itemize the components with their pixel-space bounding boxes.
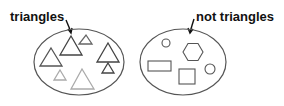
sorting-diagram — [0, 0, 284, 106]
triangle-shape — [79, 35, 92, 44]
triangle-shapes — [40, 35, 119, 89]
square-shape — [179, 69, 195, 84]
triangle-shape — [40, 48, 62, 66]
triangle-shape — [54, 70, 66, 80]
triangle-shape — [97, 43, 119, 62]
arrow-to-triangles-set — [66, 20, 72, 33]
circle-shape — [205, 64, 215, 74]
triangle-shape — [102, 63, 114, 73]
rectangle-shape — [148, 61, 171, 71]
triangle-shape — [71, 69, 94, 89]
hexagon-shape — [183, 44, 203, 61]
not-triangles-set-ellipse — [140, 29, 226, 95]
small-circle-shape — [162, 39, 170, 47]
non-triangle-shapes — [148, 39, 215, 84]
arrow-to-not-triangles-set — [188, 19, 194, 33]
triangle-shape — [60, 36, 82, 55]
